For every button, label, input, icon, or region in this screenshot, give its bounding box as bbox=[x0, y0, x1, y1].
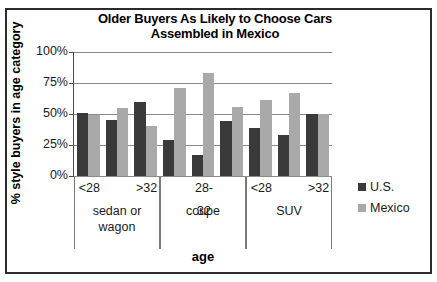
x-axis-title: age bbox=[74, 249, 332, 264]
bar-mexico-8 bbox=[318, 114, 329, 176]
y-tick-100 bbox=[69, 52, 74, 53]
legend-swatch-us-icon bbox=[358, 183, 366, 191]
bar-mexico-3 bbox=[174, 88, 185, 176]
legend-swatch-mexico-icon bbox=[358, 204, 366, 212]
bar-mexico-7 bbox=[289, 93, 300, 176]
bar-mexico-4 bbox=[203, 73, 214, 176]
bar-us-8 bbox=[306, 114, 317, 176]
chart-title-line-1: Older Buyers As Likely to Choose Cars bbox=[40, 11, 390, 26]
group-label-2: SUV bbox=[246, 200, 332, 249]
age-tick-label-4: 28-32 bbox=[190, 177, 219, 200]
age-tick-row-2: <28>32 bbox=[246, 177, 332, 200]
age-tick-label-2: >32 bbox=[132, 177, 161, 200]
y-axis-title: % style buyers in age category bbox=[9, 13, 23, 213]
age-tick-row-0: <28>32 bbox=[74, 177, 160, 200]
bar-mexico-0 bbox=[88, 115, 99, 176]
age-tick-label-7 bbox=[276, 177, 305, 200]
age-tick-label-6: <28 bbox=[247, 177, 276, 200]
age-tick-row-1: 28-32 bbox=[160, 177, 246, 200]
bar-us-2 bbox=[134, 102, 145, 176]
group-label-1-line-0: coupe bbox=[161, 203, 245, 219]
group-label-0: sedan orwagon bbox=[74, 200, 160, 249]
bar-us-6 bbox=[249, 128, 260, 176]
bar-mexico-6 bbox=[260, 100, 271, 176]
group-label-0-line-1: wagon bbox=[75, 219, 159, 235]
bar-us-3 bbox=[163, 140, 174, 176]
age-tick-label-1 bbox=[104, 177, 133, 200]
bar-us-7 bbox=[278, 135, 289, 176]
bar-us-0 bbox=[77, 113, 88, 176]
chart-container: Older Buyers As Likely to Choose Cars As… bbox=[0, 0, 437, 282]
age-tick-label-0: <28 bbox=[75, 177, 104, 200]
chart-title-line-2: Assembled in Mexico bbox=[40, 26, 390, 41]
y-tick-50 bbox=[69, 114, 74, 115]
gridline-100 bbox=[74, 52, 332, 53]
plot-area bbox=[74, 52, 332, 176]
bar-mexico-2 bbox=[146, 126, 157, 176]
legend-label-us: U.S. bbox=[370, 180, 394, 194]
x-axis-group-table: <28>32sedan orwagon28-32coupe<28>32SUV bbox=[74, 177, 332, 249]
chart-legend: U.S. Mexico bbox=[358, 176, 432, 218]
chart-title: Older Buyers As Likely to Choose Cars As… bbox=[40, 11, 390, 41]
legend-item-us: U.S. bbox=[358, 176, 432, 197]
legend-label-mexico: Mexico bbox=[370, 201, 410, 215]
group-label-1: coupe bbox=[160, 200, 246, 249]
group-label-2-line-0: SUV bbox=[247, 203, 331, 219]
age-tick-label-5 bbox=[218, 177, 247, 200]
bar-us-1 bbox=[106, 120, 117, 176]
age-tick-label-3 bbox=[161, 177, 190, 200]
legend-item-mexico: Mexico bbox=[358, 197, 432, 218]
bar-us-4 bbox=[192, 155, 203, 176]
bar-mexico-1 bbox=[117, 108, 128, 176]
age-tick-label-8: >32 bbox=[304, 177, 333, 200]
y-tick-75 bbox=[69, 83, 74, 84]
bar-mexico-5 bbox=[232, 107, 243, 176]
y-tick-25 bbox=[69, 145, 74, 146]
bar-us-5 bbox=[220, 121, 231, 176]
group-label-0-line-0: sedan or bbox=[75, 203, 159, 219]
